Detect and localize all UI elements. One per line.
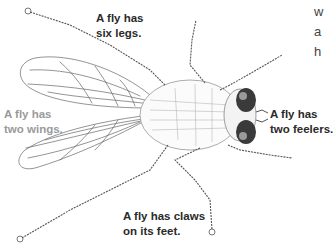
lower-eye [236,120,256,144]
label-six-legs: A fly has six legs. [96,11,144,41]
side-text-line-3: h [314,42,323,62]
label-two-wings-line1: A fly has [4,107,63,122]
upper-wing [20,57,150,108]
label-two-feelers-line1: A fly has [270,107,333,122]
label-six-legs-line2: six legs. [96,26,144,41]
label-two-wings: A fly has two wings. [4,107,63,137]
label-two-wings-line2: two wings. [4,122,63,137]
side-text-line-2: a [314,22,323,42]
side-text-cut-off: w a h [314,2,323,62]
label-two-feelers: A fly has two feelers. [270,107,333,137]
upper-eye [236,88,256,112]
fly-body [140,80,256,150]
label-claws-line1: A fly has claws [123,209,205,224]
side-text-line-1: w [314,2,323,22]
claw [209,229,215,235]
label-claws-line2: on its feet. [123,224,205,239]
label-six-legs-line1: A fly has [96,11,144,26]
feelers [256,110,268,122]
label-claws: A fly has claws on its feet. [123,209,205,239]
label-two-feelers-line2: two feelers. [270,122,333,137]
